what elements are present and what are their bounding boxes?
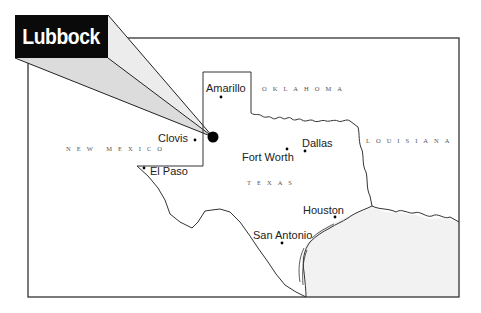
lubbock-callout: Lubbock — [15, 15, 108, 58]
region-label-texas: TEXAS — [247, 180, 298, 187]
region-label-oklahoma: OKLAHOMA — [262, 86, 348, 93]
callout-label: Lubbock — [23, 24, 101, 50]
region-label-louisiana: LOUISIANA — [366, 138, 455, 145]
city-label-amarillo: Amarillo — [206, 83, 246, 94]
region-label-new-mexico: NEW MEXICO — [66, 146, 168, 153]
city-label-houston: Houston — [303, 205, 344, 216]
city-label-fort-worth: Fort Worth — [242, 152, 294, 163]
gulf-of-mexico — [302, 207, 459, 297]
lubbock-marker — [208, 132, 219, 143]
city-label-el-paso: El Paso — [150, 166, 188, 177]
city-label-clovis: Clovis — [158, 133, 188, 144]
city-label-san-antonio: San Antonio — [253, 230, 312, 241]
city-label-dallas: Dallas — [302, 138, 333, 149]
